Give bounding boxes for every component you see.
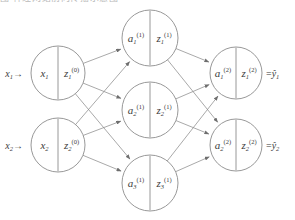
- edge-input-2-to-hidden-3: [83, 155, 121, 171]
- input-label-input-2: x2→: [4, 140, 23, 153]
- output-label-output-2: =ŷ2: [266, 140, 280, 153]
- node-input-1[interactable]: x1z1(0): [31, 46, 85, 100]
- node-hidden-3[interactable]: a3(1)z3(1): [122, 155, 178, 211]
- input-label-input-1: x1→: [4, 68, 23, 81]
- edge-input-2-to-hidden-2: [83, 121, 121, 135]
- node-output-2[interactable]: a2(2)z2(2): [210, 119, 262, 171]
- edge-input-1-to-hidden-2: [83, 83, 121, 98]
- edge-hidden-1-to-output-1: [176, 49, 209, 62]
- edge-hidden-2-to-output-2: [176, 121, 209, 134]
- node-output-1[interactable]: a1(2)z1(2): [210, 47, 262, 99]
- edge-hidden-2-to-output-1: [176, 85, 209, 99]
- network-canvas: x1z1(0)x2z2(0)a1(1)z1(1)a2(1)z2(1)a3(1)z…: [0, 0, 295, 220]
- node-input-2[interactable]: x2z2(0): [31, 118, 85, 172]
- edge-input-1-to-hidden-1: [83, 49, 121, 63]
- node-hidden-2[interactable]: a2(1)z2(1): [122, 82, 178, 138]
- node-hidden-1[interactable]: a1(1)z1(1): [122, 10, 178, 66]
- neural-network-diagram: 图 神经网络前向传播示意图 x1z1(0)x2z2(0)a1(1)z1(1)a2…: [0, 0, 295, 220]
- output-label-output-1: =ŷ1: [266, 68, 279, 81]
- edge-hidden-3-to-output-2: [176, 157, 210, 172]
- nodes-group: x1z1(0)x2z2(0)a1(1)z1(1)a2(1)z2(1)a3(1)z…: [31, 10, 262, 211]
